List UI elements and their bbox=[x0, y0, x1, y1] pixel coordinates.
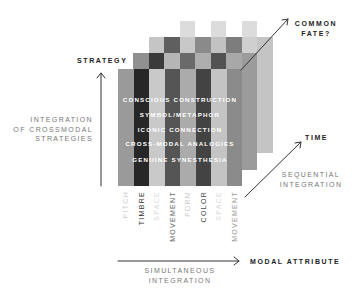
strategy-description-line: OF CROSSMODAL bbox=[13, 125, 93, 135]
modal-attribute-axis-arrow-icon bbox=[118, 257, 239, 265]
modal-attribute-axis-description: SIMULTANEOUS INTEGRATION bbox=[130, 266, 230, 285]
common-fate-axis-arrow-icon bbox=[241, 19, 288, 70]
common-fate-line: COMMON bbox=[292, 19, 340, 29]
time-description-line: INTEGRATION bbox=[276, 180, 346, 190]
modal-description-line: INTEGRATION bbox=[130, 276, 230, 286]
crossmodal-integration-diagram: CONSCIOUS CONSTRUCTION SYMBOL/METAPHOR I… bbox=[0, 0, 352, 299]
strategy-description-line: STRATEGIES bbox=[13, 134, 93, 144]
strategy-description-line: INTEGRATION bbox=[13, 115, 93, 125]
time-description-line: SEQUENTIAL bbox=[276, 170, 346, 180]
common-fate-axis-label: COMMON FATE? bbox=[292, 19, 340, 39]
strategy-axis-label: STRATEGY bbox=[77, 57, 127, 64]
time-axis-label: TIME bbox=[305, 134, 328, 141]
modal-attribute-axis-label: MODAL ATTRIBUTE bbox=[250, 258, 340, 265]
modal-description-line: SIMULTANEOUS bbox=[130, 266, 230, 276]
strategy-axis-description: INTEGRATION OF CROSSMODAL STRATEGIES bbox=[13, 115, 93, 144]
common-fate-line: FATE? bbox=[292, 29, 340, 39]
time-axis-description: SEQUENTIAL INTEGRATION bbox=[276, 170, 346, 189]
strategy-axis-arrow-icon bbox=[97, 73, 105, 186]
axis-arrows bbox=[0, 0, 352, 299]
